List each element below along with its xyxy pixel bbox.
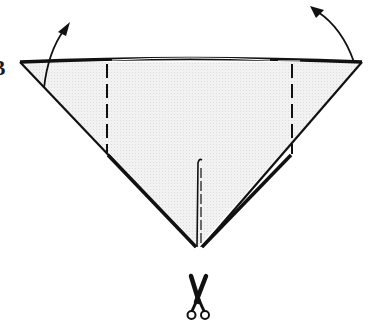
paper-triangle [20,58,362,247]
right-corner-arrow-icon [310,6,354,62]
cropped-step-label: B [0,57,5,80]
scissors-icon [188,276,210,319]
fold-diagram: B [0,0,379,331]
